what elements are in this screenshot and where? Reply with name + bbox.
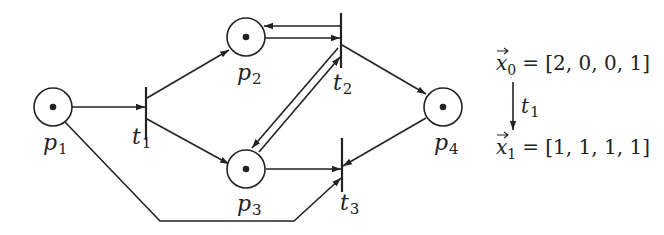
token-p1 (50, 104, 57, 111)
label-t3: t3 (340, 190, 359, 218)
state-equation: x0= [2, 0, 0, 1] t1 x1= [1, 1, 1, 1] (496, 48, 650, 162)
marking-x0: x0= [2, 0, 0, 1] (496, 51, 650, 78)
label-p4: p4 (434, 130, 459, 158)
label-p1: p1 (43, 130, 68, 158)
petri-net-diagram: p1 p2 p3 p4 t1 t2 t3 x0= [2, 0, 0, 1] t1… (0, 0, 664, 235)
label-p3: p3 (237, 191, 262, 219)
firing-label-t1: t1 (521, 94, 540, 121)
label-t2: t2 (333, 70, 352, 98)
arc-p1-t3 (65, 122, 341, 221)
label-t1: t1 (132, 124, 151, 152)
arc-p3-t2 (259, 57, 340, 152)
arc-t1-p3 (147, 119, 229, 164)
token-p2 (243, 34, 250, 41)
token-p3 (243, 166, 250, 173)
label-p2: p2 (237, 60, 262, 88)
token-p4 (440, 104, 447, 111)
marking-x1: x1= [1, 1, 1, 1] (496, 135, 650, 162)
arc-t2-p3 (252, 48, 338, 148)
arc-p4-t3 (343, 118, 426, 166)
arc-t1-p2 (147, 50, 229, 98)
arc-t2-p4 (342, 45, 426, 94)
